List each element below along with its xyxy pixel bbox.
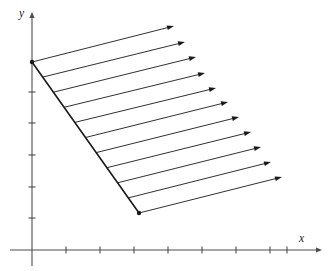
flow-arrow-9 [118,148,256,182]
flow-arrow-10 [128,163,265,198]
axes-group [10,12,322,266]
flow-arrowhead-5 [209,87,216,92]
flow-arrowhead-10 [264,161,271,166]
flow-arrow-8 [107,133,246,167]
x-axis-arrowhead [316,247,322,252]
flow-arrowhead-1 [167,25,174,30]
vertex-dot-1 [30,60,34,64]
vector-field-group [30,25,282,215]
flow-arrowhead-8 [244,131,251,136]
flow-arrow-7 [96,118,233,152]
flow-arrow-2 [43,43,180,77]
flow-arrow-11 [139,178,277,213]
y-axis-arrowhead [29,12,34,18]
flow-arrowhead-9 [254,146,261,151]
vertex-dot-2 [137,211,141,215]
flow-arrowhead-2 [178,41,185,46]
flow-arrowhead-11 [275,176,282,181]
flow-arrow-6 [86,103,223,137]
flow-arrowhead-4 [198,72,205,77]
flow-arrowhead-7 [232,116,239,121]
vector-field-figure: y x [0,0,334,271]
y-axis-label: y [19,8,24,20]
plot-canvas [0,0,334,271]
flow-arrow-1 [32,27,169,62]
flow-arrowhead-3 [189,56,196,61]
flow-arrow-4 [64,74,200,107]
flow-arrow-3 [53,58,190,92]
x-axis-label: x [299,233,304,245]
flow-arrowhead-6 [221,101,228,106]
flow-arrow-5 [75,89,211,122]
